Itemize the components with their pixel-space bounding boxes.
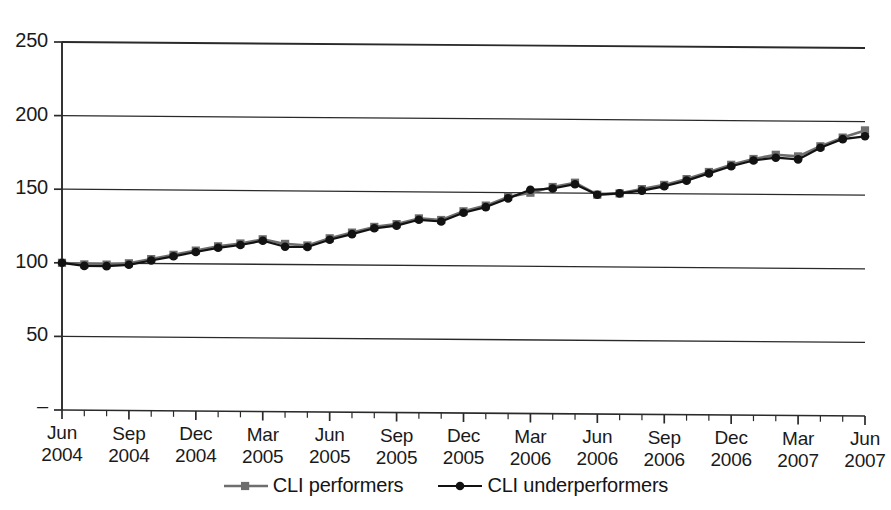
x-label-month: Sep [94, 423, 164, 445]
data-point [727, 162, 736, 171]
x-label-month: Sep [629, 427, 699, 449]
data-point [415, 216, 424, 225]
legend-item-cli-performers[interactable]: CLI performers [223, 474, 404, 497]
x-label-year: 2006 [629, 449, 699, 471]
data-point [504, 194, 513, 203]
chart-container: –50100150200250 Jun2004Sep2004Dec2004Mar… [0, 0, 891, 510]
x-axis-label-9: Sep2006 [629, 427, 699, 471]
x-label-month: Jun [27, 422, 97, 444]
data-point [660, 182, 669, 191]
series-line [62, 136, 865, 266]
x-label-year: 2006 [696, 449, 766, 471]
gridline-250 [62, 42, 865, 48]
data-point [169, 252, 178, 261]
x-axis-label-7: Mar2006 [495, 426, 565, 470]
legend-marker-icon [437, 478, 483, 494]
x-label-year: 2005 [362, 447, 432, 469]
data-point [794, 155, 803, 164]
x-label-month: Jun [562, 426, 632, 448]
x-label-year: 2006 [495, 448, 565, 470]
legend-label: CLI performers [271, 474, 404, 497]
axes-group [54, 42, 865, 416]
gridlines-group [62, 42, 865, 342]
data-point [214, 244, 223, 253]
y-axis-label-0: – [2, 395, 48, 418]
y-axis-label-100: 100 [2, 250, 48, 273]
data-point [236, 241, 245, 250]
legend-label: CLI underperformers [485, 474, 668, 497]
x-axis-label-10: Dec2006 [696, 427, 766, 471]
y-axis-label-250: 250 [2, 29, 48, 52]
series-line [62, 130, 865, 264]
x-label-year: 2006 [562, 448, 632, 470]
data-series-layer [58, 126, 870, 270]
x-axis-label-3: Mar2005 [228, 424, 298, 468]
gridline-150 [62, 189, 865, 195]
data-point [838, 135, 847, 144]
y-axis-label-150: 150 [2, 176, 48, 199]
data-point [80, 262, 89, 271]
x-label-month: Jun [830, 428, 891, 450]
data-point [861, 132, 870, 141]
gridline-50 [62, 336, 865, 342]
gridline-100 [62, 263, 865, 269]
y-axis-label-200: 200 [2, 103, 48, 126]
series-cli-performers [58, 126, 869, 268]
chart-legend: CLI performersCLI underperformers [0, 474, 891, 497]
data-point [749, 156, 758, 165]
data-point [259, 236, 268, 245]
data-point [593, 190, 602, 199]
x-axis-label-0: Jun2004 [27, 422, 97, 466]
data-point [437, 217, 446, 226]
x-axis-label-8: Jun2006 [562, 426, 632, 470]
data-point [705, 169, 714, 178]
x-axis-label-4: Jun2005 [295, 424, 365, 468]
x-label-year: 2007 [830, 450, 891, 472]
x-axis-label-11: Mar2007 [763, 428, 833, 472]
x-axis-label-2: Dec2004 [161, 423, 231, 467]
gridline-200 [62, 116, 865, 122]
data-point [102, 262, 111, 271]
x-axis-label-6: Dec2005 [429, 425, 499, 469]
x-label-month: Jun [295, 424, 365, 446]
x-axis-label-5: Sep2005 [362, 425, 432, 469]
x-label-month: Dec [696, 427, 766, 449]
data-point [571, 180, 580, 189]
x-label-year: 2004 [27, 444, 97, 466]
data-point [392, 221, 401, 230]
x-label-year: 2004 [94, 445, 164, 467]
series-cli-underperformers [58, 132, 870, 270]
data-point [370, 224, 379, 233]
data-point [816, 144, 825, 153]
data-point [325, 236, 334, 245]
data-point [348, 230, 357, 239]
x-label-year: 2005 [429, 447, 499, 469]
data-point [58, 259, 67, 268]
x-axis-label-12: Jun2007 [830, 428, 891, 472]
x-label-year: 2004 [161, 445, 231, 467]
x-label-year: 2005 [228, 446, 298, 468]
x-axis-label-1: Sep2004 [94, 423, 164, 467]
data-point [638, 186, 647, 195]
data-point [281, 243, 290, 252]
data-point [147, 256, 156, 265]
data-point [482, 203, 491, 212]
x-label-month: Mar [763, 428, 833, 450]
data-point [192, 248, 201, 257]
data-point [615, 189, 624, 198]
x-label-month: Mar [495, 426, 565, 448]
x-label-month: Dec [161, 423, 231, 445]
legend-marker-icon [223, 478, 269, 494]
data-point [125, 261, 134, 270]
data-point [526, 186, 535, 195]
x-label-year: 2005 [295, 446, 365, 468]
data-point [548, 184, 557, 193]
data-point [303, 243, 312, 252]
data-point [772, 153, 781, 162]
data-point [682, 176, 691, 185]
x-label-month: Sep [362, 425, 432, 447]
x-label-month: Mar [228, 424, 298, 446]
x-label-month: Dec [429, 425, 499, 447]
legend-item-cli-underperformers[interactable]: CLI underperformers [437, 474, 668, 497]
y-axis-label-50: 50 [2, 323, 48, 346]
